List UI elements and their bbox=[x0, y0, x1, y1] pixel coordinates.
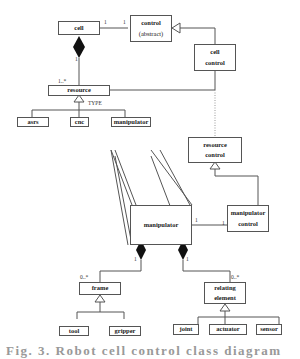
composition-diamond-icon bbox=[73, 36, 85, 58]
generalization-triangle-icon bbox=[74, 95, 84, 102]
type-label: TYPE bbox=[88, 100, 102, 106]
multiplicity-label: 1 bbox=[222, 220, 225, 226]
generalization-triangle-icon bbox=[210, 162, 220, 169]
generalization-triangle-icon bbox=[172, 23, 180, 33]
class-manipulator-control[interactable]: manipulatorcontrol bbox=[227, 205, 269, 232]
class-relating-element[interactable]: relatingelement bbox=[204, 282, 246, 304]
multiplicity-label: 1 bbox=[134, 256, 137, 262]
class-control-abstract[interactable]: control(abstract) bbox=[130, 15, 172, 42]
class-actuator[interactable]: actuator bbox=[209, 324, 247, 335]
class-tool[interactable]: tool bbox=[59, 326, 89, 336]
figure-caption: Fig. 3. Robot cell control class diagram bbox=[6, 343, 282, 359]
class-asrs[interactable]: asrs bbox=[17, 117, 49, 127]
class-joint[interactable]: joint bbox=[173, 324, 199, 335]
multiplicity-label: 0..* bbox=[231, 274, 239, 280]
multiplicity-label: 1 bbox=[123, 19, 126, 25]
class-gripper[interactable]: gripper bbox=[109, 326, 141, 336]
class-sensor[interactable]: sensor bbox=[256, 324, 282, 335]
generalization-triangle-icon bbox=[220, 304, 230, 311]
class-cnc[interactable]: cnc bbox=[70, 117, 89, 127]
class-manipulator[interactable]: manipulator bbox=[130, 205, 192, 245]
generalization-triangle-icon bbox=[95, 295, 105, 302]
class-resource-control[interactable]: resourcecontrol bbox=[188, 137, 242, 163]
multiplicity-label: 1 bbox=[104, 19, 107, 25]
class-cell-control[interactable]: cellcontrol bbox=[194, 44, 236, 71]
multiplicity-label: 1..* bbox=[58, 78, 66, 84]
multiplicity-label: 0..* bbox=[80, 274, 88, 280]
multiplicity-label: 1 bbox=[75, 56, 78, 62]
class-frame[interactable]: frame bbox=[79, 282, 121, 295]
multiplicity-label: 1 bbox=[195, 217, 198, 223]
multiplicity-label: 1 bbox=[186, 256, 189, 262]
class-manipulator-small[interactable]: manipulator bbox=[111, 117, 151, 127]
class-cell[interactable]: cell bbox=[58, 21, 100, 35]
class-resource[interactable]: resource bbox=[48, 85, 110, 96]
